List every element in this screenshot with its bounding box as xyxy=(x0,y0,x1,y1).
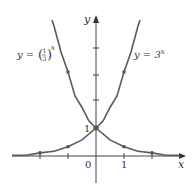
origin-label: 0 xyxy=(85,159,91,170)
svg-text:3: 3 xyxy=(43,55,47,62)
svg-text:x: x xyxy=(51,44,55,52)
svg-text:y =: y = xyxy=(16,49,34,60)
exponential-graph: y x 0 1 1 y = 3x y = ( 1 3 ) x xyxy=(0,0,196,193)
y-axis-label: y xyxy=(83,13,91,26)
label-one-third-pow-x: y = ( 1 3 ) x xyxy=(16,44,55,62)
label-3-pow-x: y = 3x xyxy=(133,48,165,60)
curve-3-pow-x xyxy=(12,20,140,155)
y-tick-label-1: 1 xyxy=(84,123,90,134)
x-axis-label: x xyxy=(178,158,185,171)
y-axis-arrow-icon xyxy=(93,15,99,23)
x-tick-label-1: 1 xyxy=(121,159,127,170)
curve-one-third-pow-x xyxy=(52,20,180,155)
svg-text:1: 1 xyxy=(43,47,47,54)
